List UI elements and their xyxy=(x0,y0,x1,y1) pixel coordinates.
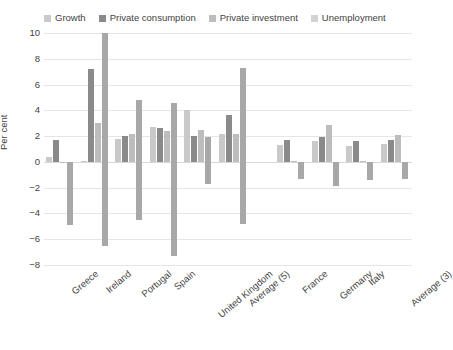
bar-group xyxy=(46,33,73,265)
bar-group xyxy=(312,33,339,265)
bar-private-consumption[interactable] xyxy=(388,140,394,162)
bar-private-investment[interactable] xyxy=(326,125,332,162)
x-tick-label: Ireland xyxy=(103,268,132,295)
x-tick-label: Germany xyxy=(337,268,374,302)
legend-label-private-consumption: Private consumption xyxy=(110,13,196,23)
y-tick-label: 0 xyxy=(14,157,40,167)
x-tick-label: Greece xyxy=(69,268,100,296)
legend-item-private-consumption[interactable]: Private consumption xyxy=(99,13,196,23)
bar-unemployment[interactable] xyxy=(205,137,211,183)
bar-private-consumption[interactable] xyxy=(53,140,59,162)
bar-private-investment[interactable] xyxy=(164,131,170,162)
bar-group xyxy=(115,33,142,265)
bar-group xyxy=(219,33,246,265)
y-tick-label: −6 xyxy=(14,234,40,244)
gridline xyxy=(44,265,412,266)
y-tick-label: 10 xyxy=(14,28,40,38)
bar-private-investment[interactable] xyxy=(233,134,239,162)
bar-unemployment[interactable] xyxy=(240,68,246,224)
x-axis-labels: GreeceIrelandPortugalSpainUnited Kingdom… xyxy=(44,268,412,348)
bar-unemployment[interactable] xyxy=(171,103,177,256)
bar-growth[interactable] xyxy=(46,157,52,162)
legend-label-private-investment: Private investment xyxy=(220,13,298,23)
bar-private-investment[interactable] xyxy=(198,130,204,162)
bar-private-consumption[interactable] xyxy=(226,115,232,161)
legend-label-growth: Growth xyxy=(55,13,86,23)
bar-private-consumption[interactable] xyxy=(88,69,94,162)
bar-growth[interactable] xyxy=(312,141,318,162)
bar-group xyxy=(184,33,211,265)
y-axis-title: Per cent xyxy=(0,115,9,150)
y-tick-label: 2 xyxy=(14,131,40,141)
bar-private-investment[interactable] xyxy=(360,161,366,162)
y-tick-label: −8 xyxy=(14,260,40,270)
bar-private-consumption[interactable] xyxy=(191,136,197,162)
bar-growth[interactable] xyxy=(184,110,190,162)
bar-growth[interactable] xyxy=(150,127,156,162)
x-tick-label: Portugal xyxy=(139,268,173,299)
bar-group xyxy=(381,33,408,265)
bar-private-investment[interactable] xyxy=(129,134,135,162)
bar-unemployment[interactable] xyxy=(402,162,408,179)
bar-growth[interactable] xyxy=(277,145,283,162)
bar-private-consumption[interactable] xyxy=(122,136,128,162)
legend-swatch-unemployment xyxy=(311,15,318,22)
bar-private-consumption[interactable] xyxy=(353,141,359,162)
legend-item-private-investment[interactable]: Private investment xyxy=(209,13,298,23)
legend-item-unemployment[interactable]: Unemployment xyxy=(311,13,386,23)
x-tick-label: Average (3) xyxy=(408,268,453,308)
legend-item-growth[interactable]: Growth xyxy=(44,13,86,23)
bar-group xyxy=(81,33,108,265)
bar-growth[interactable] xyxy=(381,144,387,162)
legend-label-unemployment: Unemployment xyxy=(322,13,386,23)
bar-private-consumption[interactable] xyxy=(157,128,163,162)
bar-private-investment[interactable] xyxy=(60,162,66,163)
y-axis-ticks: 1086420−2−4−6−8 xyxy=(10,33,40,265)
y-tick-label: −2 xyxy=(14,183,40,193)
bar-unemployment[interactable] xyxy=(333,162,339,186)
x-tick-label: Spain xyxy=(171,268,197,292)
bar-private-investment[interactable] xyxy=(395,135,401,162)
legend-swatch-private-investment xyxy=(209,15,216,22)
bar-growth[interactable] xyxy=(346,146,352,161)
bar-unemployment[interactable] xyxy=(136,100,142,220)
chart-legend: Growth Private consumption Private inves… xyxy=(44,10,416,26)
y-tick-label: −4 xyxy=(14,209,40,219)
bar-growth[interactable] xyxy=(115,139,121,162)
bar-private-consumption[interactable] xyxy=(284,140,290,162)
bar-unemployment[interactable] xyxy=(298,162,304,179)
bar-group xyxy=(346,33,373,265)
legend-swatch-private-consumption xyxy=(99,15,106,22)
bar-unemployment[interactable] xyxy=(102,33,108,246)
bar-growth[interactable] xyxy=(81,161,87,162)
x-tick-label: France xyxy=(300,268,330,295)
bar-private-consumption[interactable] xyxy=(319,137,325,161)
bar-unemployment[interactable] xyxy=(67,162,73,225)
bar-unemployment[interactable] xyxy=(367,162,373,180)
bar-group xyxy=(277,33,304,265)
bar-growth[interactable] xyxy=(219,134,225,162)
y-tick-label: 6 xyxy=(14,80,40,90)
bar-private-investment[interactable] xyxy=(291,161,297,162)
bar-group xyxy=(150,33,177,265)
y-tick-label: 8 xyxy=(14,54,40,64)
plot-area xyxy=(44,33,412,265)
legend-swatch-growth xyxy=(44,15,51,22)
y-tick-label: 4 xyxy=(14,106,40,116)
bar-private-investment[interactable] xyxy=(95,123,101,162)
